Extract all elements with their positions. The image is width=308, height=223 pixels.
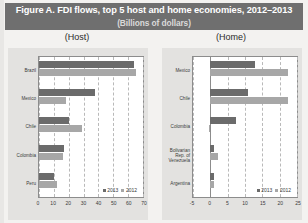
bar-group (39, 57, 143, 85)
x-axis-home: -50510152025 (192, 200, 298, 212)
x-axis-tick-label: 0 (208, 200, 211, 206)
bar-2013 (210, 89, 248, 96)
category-labels-host: BrazilMexicoChileColombiaPeru (8, 56, 38, 198)
bar-group (193, 113, 297, 141)
x-axis-tick-label: 25 (295, 200, 301, 206)
bar-group (39, 113, 143, 141)
x-axis-tick-label: 60 (126, 200, 132, 206)
page-title: Figure A. FDI flows, top 5 host and home… (5, 4, 303, 17)
x-axis-tick-label: -5 (190, 200, 194, 206)
bar-group (39, 85, 143, 113)
bar-2013 (39, 173, 54, 180)
category-label: Mexico (162, 68, 190, 73)
category-label: Chile (8, 124, 36, 129)
bar-2013 (39, 89, 95, 96)
bar-2013 (210, 117, 236, 124)
bar-2012 (210, 97, 288, 104)
chart-body-host: BrazilMexicoChileColombiaPeru 2013 (8, 48, 148, 220)
figure-subtitle: (Billions of dollars) (5, 17, 303, 29)
category-label: Argentina (162, 181, 190, 186)
x-axis-host: 010203040506070 (38, 200, 144, 212)
chart-legend-home: 2013 2012 (257, 187, 291, 193)
bar-2013 (39, 117, 69, 124)
plot-area-host: 2013 2012 (38, 56, 144, 198)
legend-item-2012: 2012 (121, 187, 137, 193)
charts-row: (Host) BrazilMexicoChileColombiaPeru 201… (0, 30, 308, 223)
bar-2012 (39, 69, 136, 76)
plot-area-home: 2013 2012 (192, 56, 298, 198)
legend-swatch-2013-icon (257, 189, 260, 192)
legend-item-2013: 2013 (257, 187, 273, 193)
legend-label-2013: 2013 (107, 187, 118, 193)
bar-2012 (210, 181, 214, 188)
bar-2012 (39, 181, 57, 188)
category-label: Colombia (8, 153, 36, 158)
bar-2013 (210, 145, 213, 152)
x-axis-tick-label: 30 (81, 200, 87, 206)
x-axis-tick-label: 20 (278, 200, 284, 206)
bar-2013 (210, 61, 255, 68)
category-label: Brazil (8, 68, 36, 73)
legend-label-2012: 2012 (126, 187, 137, 193)
legend-label-2012: 2012 (280, 187, 291, 193)
category-label: Chile (162, 96, 190, 101)
plot-frame-home: 2013 2012 (192, 56, 298, 198)
legend-swatch-2013-icon (103, 189, 106, 192)
bar-group (39, 141, 143, 169)
x-axis-tick-label: 50 (111, 200, 117, 206)
bar-2012 (39, 125, 82, 132)
bar-2012 (209, 125, 211, 132)
chart-title-home: (Home) (154, 32, 308, 42)
bar-group (193, 57, 297, 85)
legend-item-2013: 2013 (103, 187, 119, 193)
bar-2012 (39, 97, 66, 104)
bars-home (193, 57, 297, 197)
legend-label-2013: 2013 (261, 187, 272, 193)
bar-2012 (39, 153, 63, 160)
x-axis-tick-label: 15 (260, 200, 266, 206)
gridline (143, 57, 144, 197)
chart-legend-host: 2013 2012 (103, 187, 137, 193)
chart-body-home: MexicoChileColombiaBolivarianRep. ofVene… (162, 48, 302, 220)
x-axis-tick-label: 5 (226, 200, 229, 206)
category-label: Peru (8, 181, 36, 186)
figure-container: Figure A. FDI flows, top 5 host and home… (0, 0, 308, 223)
chart-panel-home: (Home) MexicoChileColombiaBolivarianRep.… (154, 30, 308, 223)
legend-swatch-2012-icon (275, 189, 278, 192)
legend-swatch-2012-icon (121, 189, 124, 192)
figure-title-banner: Figure A. FDI flows, top 5 host and home… (5, 3, 303, 30)
chart-panel-host: (Host) BrazilMexicoChileColombiaPeru 201… (0, 30, 154, 223)
chart-title-host: (Host) (0, 32, 154, 42)
x-axis-tick-label: 10 (50, 200, 56, 206)
category-label: Colombia (162, 124, 190, 129)
legend-item-2012: 2012 (275, 187, 291, 193)
x-axis-tick-label: 40 (96, 200, 102, 206)
plot-frame-host: 2013 2012 (38, 56, 144, 198)
bar-2012 (210, 153, 218, 160)
bar-2013 (39, 61, 134, 68)
gridline (297, 57, 298, 197)
bars-host (39, 57, 143, 197)
bar-group (193, 85, 297, 113)
x-axis-tick-label: 70 (141, 200, 147, 206)
bar-2013 (39, 145, 64, 152)
x-axis-tick-label: 20 (66, 200, 72, 206)
bar-2013 (210, 173, 213, 180)
x-axis-tick-label: 0 (37, 200, 40, 206)
bar-group (193, 141, 297, 169)
x-axis-tick-label: 10 (242, 200, 248, 206)
bar-2012 (210, 69, 288, 76)
category-label: BolivarianRep. ofVenezuela (162, 148, 190, 164)
category-labels-home: MexicoChileColombiaBolivarianRep. ofVene… (162, 56, 192, 198)
category-label: Mexico (8, 96, 36, 101)
